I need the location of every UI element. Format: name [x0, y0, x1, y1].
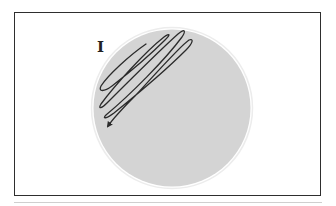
streak-plate-diagram: I	[0, 0, 336, 206]
bottom-rule	[14, 202, 322, 203]
petri-dish	[94, 30, 251, 187]
section-label: I	[97, 38, 104, 56]
